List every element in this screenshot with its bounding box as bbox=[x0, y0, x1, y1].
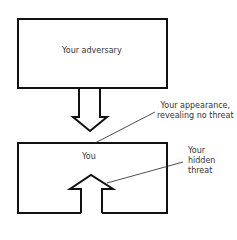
up-arrow-icon bbox=[70, 175, 113, 213]
appearance-line-1: Your appearance, bbox=[157, 101, 234, 111]
hidden-threat-leader-line bbox=[107, 162, 183, 183]
you-label: You bbox=[82, 152, 96, 162]
hidden-threat-line-3: threat bbox=[188, 166, 215, 176]
adversary-label: Your adversary bbox=[62, 46, 122, 56]
down-arrow-icon bbox=[73, 88, 107, 131]
appearance-annotation: Your appearance, revealing no threat bbox=[157, 101, 234, 121]
appearance-line-2: revealing no threat bbox=[157, 111, 234, 121]
hidden-threat-line-2: hidden bbox=[188, 156, 215, 166]
hidden-threat-line-1: Your bbox=[188, 146, 215, 156]
hidden-threat-annotation: Your hidden threat bbox=[188, 146, 215, 176]
